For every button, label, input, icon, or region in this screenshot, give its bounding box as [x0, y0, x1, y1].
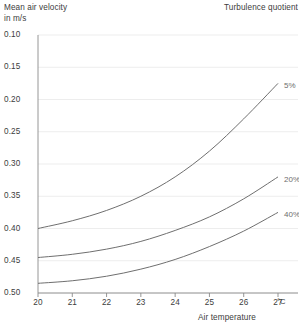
- x-tick-label: 23: [129, 298, 153, 307]
- x-tick-label: 20: [26, 298, 50, 307]
- y-tick-label: 0.35: [4, 191, 20, 200]
- chart-container: Mean air velocity in m/s Turbulence quot…: [0, 0, 299, 326]
- curve-5pct: [38, 83, 278, 228]
- x-tick-label: 26: [232, 298, 256, 307]
- x-axis-unit: °C: [277, 297, 286, 306]
- y-tick-label: 0.20: [4, 95, 20, 104]
- x-tick-label: 25: [197, 298, 221, 307]
- x-tick-marks: [38, 293, 278, 297]
- y-tick-label: 0.40: [4, 224, 20, 233]
- x-axis-title: Air temperature: [198, 313, 256, 322]
- data-curves: [38, 83, 278, 283]
- x-tick-label: 24: [163, 298, 187, 307]
- y-tick-label: 0.25: [4, 127, 20, 136]
- chart-plot: [0, 0, 299, 326]
- y-tick-label: 0.50: [4, 288, 20, 297]
- curve-40pct: [38, 212, 278, 283]
- series-label-5pct: 5%: [284, 81, 296, 90]
- x-tick-label: 22: [95, 298, 119, 307]
- series-label-20pct: 20%: [284, 175, 299, 184]
- gridlines: [38, 35, 298, 293]
- x-tick-label: 21: [60, 298, 84, 307]
- y-tick-label: 0.30: [4, 159, 20, 168]
- series-label-40pct: 40%: [284, 210, 299, 219]
- y-tick-label: 0.15: [4, 62, 20, 71]
- curve-20pct: [38, 177, 278, 258]
- y-tick-label: 0.45: [4, 256, 20, 265]
- y-tick-label: 0.10: [4, 30, 20, 39]
